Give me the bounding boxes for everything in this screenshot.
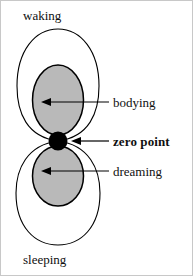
label-bodying: bodying [113, 96, 156, 109]
label-dreaming: dreaming [113, 165, 162, 178]
lower-inner-lobe [33, 146, 84, 206]
zero-point-dot [49, 132, 68, 151]
label-sleeping: sleeping [23, 253, 66, 266]
diagram-canvas: waking sleeping bodying zero point dream… [0, 0, 193, 276]
zero-point-arrow [71, 137, 109, 145]
label-waking: waking [23, 9, 61, 22]
upper-inner-lobe [33, 65, 84, 135]
label-zero-point: zero point [113, 135, 170, 148]
